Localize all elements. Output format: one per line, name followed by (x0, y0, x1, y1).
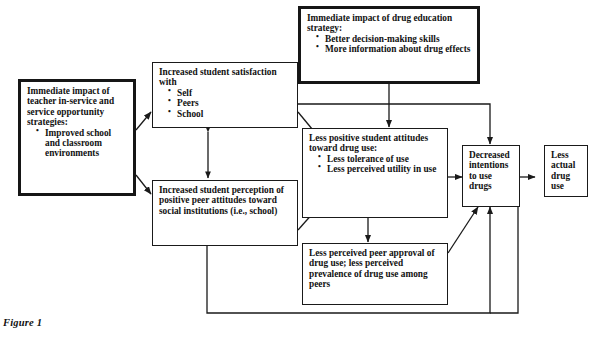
bullet-item: Better decision-making skills (316, 34, 472, 44)
edge-teacher-to-satisfaction (136, 112, 151, 130)
node-peer-perception-title: Increased student perception of positive… (159, 185, 292, 216)
bullet-item: More information about drug effects (316, 44, 472, 54)
node-student-satisfaction-title: Increased student satisfaction with (159, 67, 292, 88)
node-less-actual-use[interactable]: Less actual drug use (544, 145, 588, 197)
node-drug-education-strategy-bullets: Better decision-making skills More infor… (307, 34, 472, 55)
bullet-item: Self (168, 88, 292, 98)
node-student-satisfaction-bullets: Self Peers School (159, 88, 292, 119)
bullet-item: Less tolerance of use (318, 154, 442, 164)
bullet-item: Peers (168, 98, 292, 108)
bullet-item: School (168, 109, 292, 119)
figure-canvas: Immediate impact of teacher in-service a… (0, 0, 600, 339)
node-less-positive-attitudes-title: Less positive student attitudes toward d… (309, 133, 442, 154)
node-less-positive-attitudes-bullets: Less tolerance of use Less perceived uti… (309, 154, 442, 175)
node-teacher-strategies-bullets: Improved school and classroom environmen… (27, 128, 128, 159)
bullet-item: Improved school and classroom environmen… (36, 128, 128, 159)
node-less-actual-use-title: Less actual drug use (551, 150, 582, 192)
bullet-item: Less perceived utility in use (318, 164, 442, 174)
node-decreased-intentions[interactable]: Decreased intentions to use drugs (462, 145, 520, 207)
node-decreased-intentions-title: Decreased intentions to use drugs (469, 150, 514, 192)
node-drug-education-strategy-title: Immediate impact of drug education strat… (307, 13, 472, 34)
node-less-positive-attitudes[interactable]: Less positive student attitudes toward d… (302, 128, 448, 218)
edge-teacher-to-perception (136, 175, 151, 194)
edge-peerapproval-to-intentions (448, 207, 478, 253)
node-drug-education-strategy[interactable]: Immediate impact of drug education strat… (298, 6, 480, 84)
node-peer-perception[interactable]: Increased student perception of positive… (152, 180, 298, 246)
node-student-satisfaction[interactable]: Increased student satisfaction with Self… (152, 62, 298, 128)
figure-caption: Figure 1 (3, 317, 42, 328)
node-teacher-strategies-title: Immediate impact of teacher in-service a… (27, 86, 128, 128)
edge-actualuse-feedback (490, 196, 518, 313)
node-teacher-strategies[interactable]: Immediate impact of teacher in-service a… (18, 79, 136, 196)
node-less-peer-approval-title: Less perceived peer approval of drug use… (309, 248, 442, 290)
node-less-peer-approval[interactable]: Less perceived peer approval of drug use… (302, 243, 448, 305)
